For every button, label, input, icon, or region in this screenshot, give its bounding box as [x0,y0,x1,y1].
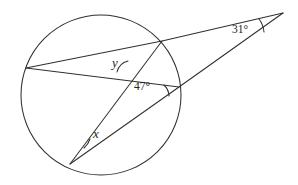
geometry-canvas [0,0,298,185]
angle-label-y: y [112,56,118,69]
geometry-diagram: y x 47° 31° [0,0,298,185]
angle-label-31: 31° [232,24,248,36]
circle-shape [21,15,181,175]
angle-label-x: x [93,127,99,140]
angle-arc-y [117,61,128,72]
chord-left-to-right [26,68,179,87]
angle-label-47: 47° [134,81,150,93]
secant-line-lower [70,13,283,164]
